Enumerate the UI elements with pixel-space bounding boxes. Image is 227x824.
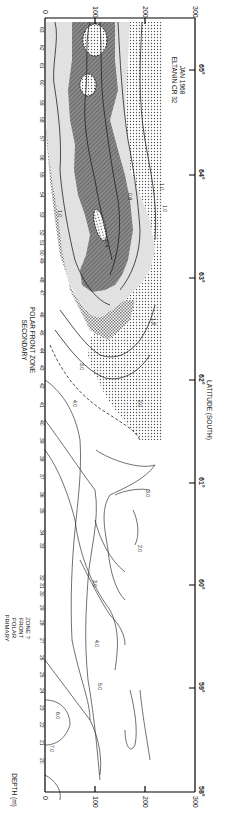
depth-tick-0: 0	[42, 10, 49, 14]
lat-60: 60°	[198, 579, 205, 590]
station: 52	[39, 230, 45, 236]
station: 25	[39, 672, 45, 678]
station: 41	[39, 402, 45, 408]
depth-tick-300-bottom: 300	[192, 796, 199, 808]
lat-58: 58°	[198, 786, 205, 797]
station: 35	[39, 508, 45, 514]
station: 63	[39, 27, 45, 33]
station: 39	[39, 438, 45, 444]
station: 29	[39, 605, 45, 611]
contour-label: 4.0	[72, 400, 78, 407]
station: 53	[39, 212, 45, 218]
primary-zone-label-1: PRIMARY	[4, 614, 10, 641]
contour-label: 7.0	[49, 745, 55, 752]
axis-latitude-ticks	[189, 70, 195, 688]
contour-label: 4.0	[94, 640, 100, 647]
primary-zone-label-2: POLAR	[11, 618, 17, 639]
lat-62: 62°	[198, 374, 205, 385]
y-axis-title: DEPTH (m)	[10, 773, 18, 807]
contour-label: 1.0	[159, 183, 165, 190]
station: 24	[39, 688, 45, 694]
station: 28	[39, 620, 45, 626]
contour-label: 2.0	[137, 400, 143, 407]
station: 61	[39, 63, 45, 69]
secondary-zone-label-1: SECONDARY	[21, 319, 28, 361]
contour-label: 1.0	[57, 210, 63, 217]
lat-59: 59°	[198, 682, 205, 693]
lat-63: 63°	[198, 272, 205, 283]
station-labels: 63 62 61 60 59 58 57 56 55 54 53 52 51 5…	[39, 27, 45, 764]
latitude-tick-labels: 65° 64° 63° 62° 61° 60° 59° 58°	[198, 64, 205, 797]
station: 45	[39, 330, 45, 336]
station: 26	[39, 655, 45, 661]
station: 43	[39, 365, 45, 371]
x-axis-title: LATITUDE (SOUTH)	[205, 380, 213, 440]
station: 42	[39, 383, 45, 389]
depth-tick-200-bottom: 200	[142, 796, 149, 808]
station: 22	[39, 722, 45, 728]
station: 32	[39, 575, 45, 581]
station: 55	[39, 172, 45, 178]
station: 23	[39, 705, 45, 711]
station: 40	[39, 420, 45, 426]
station: 38	[39, 456, 45, 462]
station: 30	[39, 591, 45, 597]
contour-label: 1.0	[162, 205, 168, 212]
station: 51	[39, 240, 45, 246]
station: 48	[39, 277, 45, 283]
station: 21	[39, 740, 45, 746]
depth-tick-100-bottom: 100	[92, 796, 99, 808]
station: 46	[39, 312, 45, 318]
depth-tick-200: 200	[142, 6, 149, 18]
contours-north	[45, 380, 155, 800]
station: 54	[39, 192, 45, 198]
station: 34	[39, 530, 45, 536]
station: 50	[39, 250, 45, 256]
station: 33	[39, 543, 45, 549]
lat-64: 64°	[198, 169, 205, 180]
contour-label: 1.6	[151, 318, 157, 325]
station: 58	[39, 117, 45, 123]
station: 20	[39, 758, 45, 764]
contour-section-figure: 0 100 200 300 0 100 200 300 65° 64° 63° …	[0, 0, 227, 824]
lat-65: 65°	[198, 64, 205, 75]
station: 47	[39, 290, 45, 296]
contour-label: 6.0	[55, 712, 61, 719]
date-label: JAN 1968	[179, 66, 186, 95]
contour-label: 3.0	[92, 580, 98, 587]
lat-61: 61°	[198, 477, 205, 488]
depth-tick-100: 100	[92, 6, 99, 18]
station: 31	[39, 583, 45, 589]
contour-label: 3.0	[79, 363, 85, 370]
primary-zone-label-4: ZONE ?	[25, 617, 31, 639]
contour-label: 0.8	[127, 193, 133, 200]
depth-tick-0-bottom: 0	[42, 796, 49, 800]
contour-label: 2.0	[137, 545, 143, 552]
station: 59	[39, 100, 45, 106]
station: 56	[39, 155, 45, 161]
contour-label: 3.0	[145, 490, 151, 497]
station: 27	[39, 638, 45, 644]
cruise-label: ELTANIN CR 32	[171, 57, 178, 104]
eddy-2	[80, 74, 96, 96]
primary-zone-label-3: FRONT	[18, 618, 24, 639]
station: 36	[39, 492, 45, 498]
station: 57	[39, 136, 45, 142]
station: 49	[39, 258, 45, 264]
contour-label: 5.0	[97, 683, 103, 690]
contour-label: 0.4	[104, 240, 110, 247]
station: 60	[39, 80, 45, 86]
station: 44	[39, 348, 45, 354]
station: 62	[39, 45, 45, 51]
secondary-zone-label-2: POLAR FRONT ZONE	[29, 307, 36, 374]
depth-tick-300: 300	[192, 6, 199, 18]
station: 37	[39, 474, 45, 480]
